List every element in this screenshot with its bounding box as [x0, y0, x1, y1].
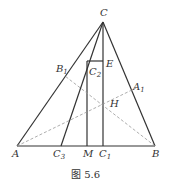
svg-text:B: B	[151, 148, 159, 159]
geometry-figure: C B1 C2 E A1 H A C3 M C1 B 图 5.6	[0, 0, 171, 184]
svg-text:图 5.6: 图 5.6	[71, 169, 100, 180]
svg-text:C: C	[100, 7, 108, 18]
label-B1: B	[55, 63, 63, 74]
svg-text:B1: B1	[55, 63, 68, 76]
figure-caption: 图 5.6	[71, 169, 100, 180]
side-CA	[17, 22, 103, 146]
side-CB	[103, 22, 155, 146]
svg-text:C1: C1	[99, 148, 111, 161]
svg-text:C3: C3	[53, 148, 66, 161]
svg-text:E: E	[105, 58, 114, 69]
label-M: M	[82, 148, 94, 159]
label-B: B	[151, 148, 159, 159]
label-A: A	[11, 148, 19, 159]
label-H: H	[109, 98, 119, 109]
svg-text:C2: C2	[89, 66, 102, 79]
svg-text:M: M	[82, 148, 94, 159]
svg-text:A: A	[11, 148, 19, 159]
svg-text:H: H	[109, 98, 119, 109]
label-E: E	[105, 58, 114, 69]
triangle-diagram: C B1 C2 E A1 H A C3 M C1 B 图 5.6	[0, 0, 171, 184]
segment-CC3	[61, 22, 103, 146]
label-A1: A	[132, 81, 140, 92]
label-C: C	[100, 7, 108, 18]
svg-text:A1: A1	[132, 81, 145, 94]
